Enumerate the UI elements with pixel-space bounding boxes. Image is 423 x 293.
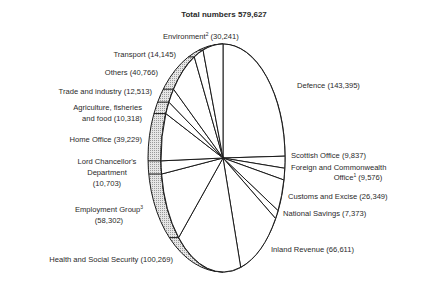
label-text: Scottish Office (9,837): [291, 151, 366, 160]
label-text: Trade and industry (12,513): [59, 87, 153, 96]
label-text: Lord Chancellor's: [78, 157, 137, 166]
label-text: (58,302): [95, 216, 124, 225]
slice-label-others: Others (40,766): [105, 68, 159, 77]
chart-title: Total numbers 579,627: [181, 10, 267, 19]
slice-label-agriculture-fisheries-and-food: Agriculture, fisheriesand food (10,318): [73, 103, 142, 123]
slice-label-scottish-office: Scottish Office (9,837): [291, 151, 366, 160]
label-text: National Savings (7,373): [283, 209, 367, 218]
pie-chart: Total numbers 579,627 Defence (143,395)S…: [0, 0, 423, 293]
slice-label-customs-and-excise: Customs and Excise (26,349): [288, 192, 388, 201]
label-text: Office1 (9,576): [334, 172, 383, 182]
label-text: Environment2 (30,241): [163, 31, 239, 41]
label-text: Department: [87, 168, 128, 177]
label-text: Foreign and Commonwealth: [291, 163, 386, 172]
label-text: Inland Revenue (66,611): [271, 245, 354, 254]
slice-label-health-and-social-security: Health and Social Security (100,269): [49, 255, 173, 264]
label-text: and food (10,318): [82, 114, 142, 123]
slice-label-employment-group: Employment Group3(58,302): [75, 204, 143, 225]
label-text: Defence (143,395): [297, 81, 360, 90]
label-text: Home Office (39,229): [70, 135, 143, 144]
label-text: Transport (14,145): [113, 50, 176, 59]
slice-label-national-savings: National Savings (7,373): [283, 209, 367, 218]
slice-label-home-office: Home Office (39,229): [70, 135, 143, 144]
slice-label-transport: Transport (14,145): [113, 50, 176, 59]
label-text: Customs and Excise (26,349): [288, 192, 388, 201]
slice-label-foreign-and-commonwealth-office: Foreign and CommonwealthOffice1 (9,576): [291, 163, 386, 182]
label-text: Others (40,766): [105, 68, 159, 77]
slice-label-environment: Environment2 (30,241): [163, 31, 239, 41]
slice-label-trade-and-industry: Trade and industry (12,513): [59, 87, 153, 96]
slice-label-defence: Defence (143,395): [297, 81, 360, 90]
label-text: Employment Group3: [75, 204, 143, 214]
pie-slice-defence: [223, 44, 285, 158]
pie-layer: [148, 44, 285, 272]
label-text: (10,703): [93, 179, 122, 188]
slice-label-lord-chancellor-s-department: Lord Chancellor'sDepartment(10,703): [78, 157, 137, 188]
slice-label-inland-revenue: Inland Revenue (66,611): [271, 245, 354, 254]
label-text: Agriculture, fisheries: [73, 103, 142, 112]
label-text: Health and Social Security (100,269): [49, 255, 173, 264]
